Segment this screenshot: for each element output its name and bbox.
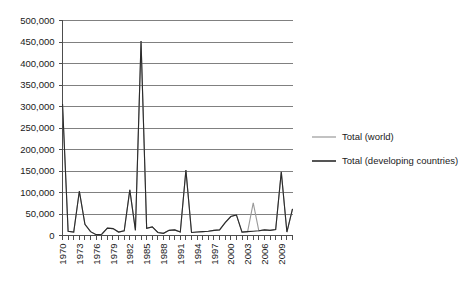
x-axis-tick-label: 1982 <box>124 244 135 265</box>
x-axis-tick-label: 1976 <box>91 244 102 265</box>
y-axis-tick-label: 150,000 <box>20 165 54 176</box>
x-axis-tick-label: 2000 <box>225 244 236 265</box>
x-axis-tick-label: 1985 <box>141 244 152 265</box>
line-chart: 050,000100,000150,000200,000250,000300,0… <box>0 0 468 287</box>
y-axis-tick-label: 50,000 <box>25 208 54 219</box>
x-axis-tick-label: 1997 <box>209 244 220 265</box>
y-axis-tick-label: 100,000 <box>20 187 54 198</box>
x-axis-tick-label: 1988 <box>158 244 169 265</box>
x-axis-tick-label: 1994 <box>192 244 203 265</box>
x-axis-tick-label: 2009 <box>276 244 287 265</box>
y-axis-tick-label: 350,000 <box>20 79 54 90</box>
y-axis-tick-label: 300,000 <box>20 101 54 112</box>
y-axis-tick-label: 450,000 <box>20 36 54 47</box>
legend-label-developing-countries: Total (developing countries) <box>342 155 458 166</box>
x-axis-tick-label: 2003 <box>242 244 253 265</box>
x-axis-tick-label: 1973 <box>74 244 85 265</box>
x-axis-tick-label: 2006 <box>259 244 270 265</box>
x-axis-tick-label: 1979 <box>108 244 119 265</box>
y-axis-tick-label: 0 <box>49 230 54 241</box>
y-axis-tick-label: 400,000 <box>20 58 54 69</box>
y-axis-tick-label: 250,000 <box>20 122 54 133</box>
x-axis-tick-label: 1991 <box>175 244 186 265</box>
chart-container: 050,000100,000150,000200,000250,000300,0… <box>0 0 468 287</box>
x-axis-tick-label: 1970 <box>57 244 68 265</box>
y-axis-tick-label: 200,000 <box>20 144 54 155</box>
y-axis-tick-label: 500,000 <box>20 15 54 26</box>
legend-label-world: Total (world) <box>342 131 394 142</box>
